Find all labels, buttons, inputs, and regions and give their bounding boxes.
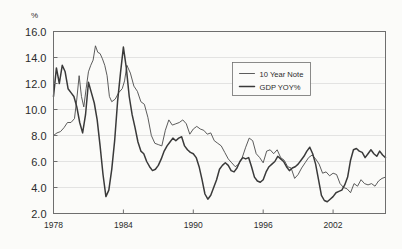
y-axis-unit-label: % (31, 11, 38, 20)
legend-label-ten-year-note[interactable]: 10 Year Note (260, 70, 304, 79)
x-tick-label: 1996 (254, 220, 273, 230)
y-tick-label: 16.0 (25, 26, 46, 38)
line-chart: 16.014.012.010.08.06.04.02.0 19781984199… (0, 0, 402, 249)
y-tick-label: 12.0 (25, 78, 46, 90)
plot-frame (54, 32, 386, 214)
x-tick-label: 2002 (324, 220, 343, 230)
y-tick-label: 14.0 (25, 52, 46, 64)
chart-legend[interactable]: 10 Year NoteGDP YOY% (233, 63, 311, 96)
tickmarks-group (54, 32, 334, 214)
series-line-gdp-yoy (54, 47, 386, 202)
y-tick-label: 6.0 (31, 156, 46, 168)
plot-border (54, 32, 386, 214)
y-tick-label: 4.0 (31, 182, 46, 194)
percent-unit-label: % (31, 11, 38, 20)
x-tick-label: 1990 (184, 220, 203, 230)
x-axis-labels: 19781984199019962002 (44, 220, 343, 230)
y-axis-labels: 16.014.012.010.08.06.04.02.0 (25, 26, 46, 220)
gridlines-group (54, 32, 386, 214)
series-group (54, 46, 386, 202)
x-tick-label: 1984 (114, 220, 133, 230)
y-tick-label: 10.0 (25, 104, 46, 116)
x-tick-label: 1978 (44, 220, 63, 230)
chart-container: 16.014.012.010.08.06.04.02.0 19781984199… (0, 0, 402, 249)
y-tick-label: 8.0 (31, 130, 46, 142)
y-tick-label: 2.0 (31, 208, 46, 220)
legend-label-gdp-yoy[interactable]: GDP YOY% (260, 83, 301, 92)
